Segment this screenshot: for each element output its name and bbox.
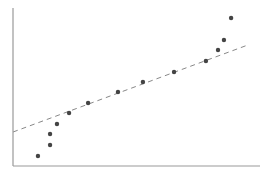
axes [13, 8, 260, 166]
data-point [172, 70, 176, 74]
data-point [229, 16, 233, 20]
data-point [216, 48, 220, 52]
data-point [67, 111, 71, 115]
dashed-fit-line [13, 45, 248, 132]
data-point [141, 80, 145, 84]
data-point [86, 101, 90, 105]
data-point [116, 90, 120, 94]
scatter-chart [0, 0, 273, 177]
data-point [222, 38, 226, 42]
data-point [204, 59, 208, 63]
data-point [36, 154, 40, 158]
data-point [55, 122, 59, 126]
reference-line [13, 45, 248, 132]
data-point [48, 132, 52, 136]
data-point [48, 143, 52, 147]
